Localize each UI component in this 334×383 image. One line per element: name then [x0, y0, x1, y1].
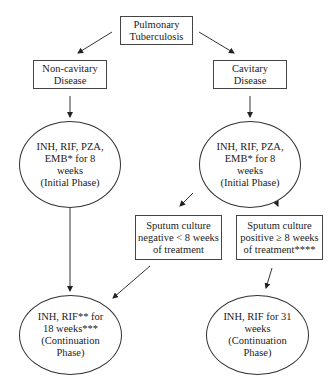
node-continuation-31-weeks: INH, RIF for 31 weeks (Continuation Phas…: [206, 295, 309, 375]
node-label: Cavitary Disease: [232, 63, 268, 87]
node-label: Sputum culture negative < 8 weeks of tre…: [138, 220, 219, 256]
node-continuation-18-weeks: INH, RIF** for 18 weeks*** (Continuation…: [19, 295, 122, 375]
node-label: Non-cavitary Disease: [42, 63, 97, 87]
arrow-sputum-negative-to-continuation-18: [113, 266, 150, 298]
node-label: INH, RIF, PZA, EMB* for 8 weeks (Initial…: [36, 141, 103, 189]
node-label: Pulmonary Tuberculosis: [130, 19, 184, 43]
node-initial-phase-left: INH, RIF, PZA, EMB* for 8 weeks (Initial…: [19, 121, 121, 208]
arrow-sputum-positive-to-continuation-31: [266, 268, 272, 288]
arrow-root-to-cavitary: [199, 32, 234, 53]
arrow-root-to-noncavitary: [78, 32, 112, 53]
node-initial-phase-right: INH, RIF, PZA, EMB* for 8 weeks (Initial…: [199, 121, 301, 208]
node-sputum-positive: Sputum culture positive ≥ 8 weeks of tre…: [236, 215, 323, 260]
node-label: INH, RIF** for 18 weeks*** (Continuation…: [38, 311, 104, 359]
node-label: INH, RIF for 31 weeks (Continuation Phas…: [223, 311, 291, 359]
node-label: INH, RIF, PZA, EMB* for 8 weeks (Initial…: [216, 141, 283, 189]
node-label: Sputum culture positive ≥ 8 weeks of tre…: [240, 220, 318, 256]
node-sputum-negative: Sputum culture negative < 8 weeks of tre…: [135, 215, 222, 260]
node-cavitary-disease: Cavitary Disease: [213, 60, 287, 89]
node-noncavitary-disease: Non-cavitary Disease: [33, 60, 107, 89]
node-pulmonary-tuberculosis: Pulmonary Tuberculosis: [120, 16, 193, 45]
arrow-initial-right-to-sputum-negative: [180, 193, 193, 206]
